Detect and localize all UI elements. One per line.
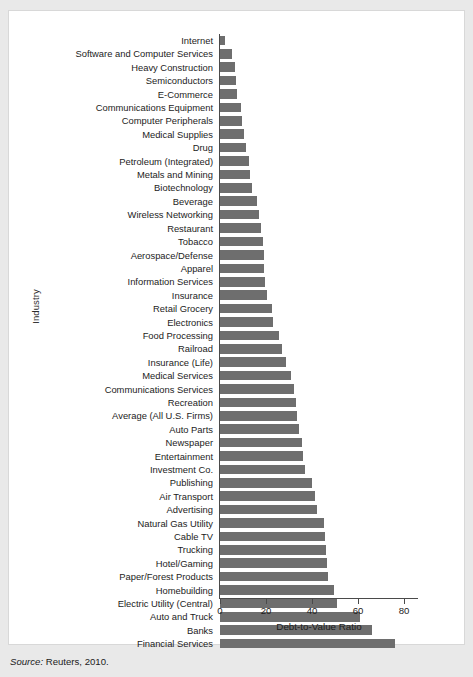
category-label: Auto and Truck <box>29 610 217 623</box>
bar-row <box>220 570 420 583</box>
plot-bars <box>220 34 420 598</box>
bar <box>220 129 244 139</box>
bar <box>220 290 267 300</box>
bar-row <box>220 637 420 650</box>
category-label: Restaurant <box>29 222 217 235</box>
bar-row <box>220 141 420 154</box>
bar <box>220 344 282 354</box>
x-tick-label: 40 <box>292 605 332 616</box>
category-label: Heavy Construction <box>29 61 217 74</box>
bar <box>220 558 327 568</box>
bar-row <box>220 543 420 556</box>
category-label: Metals and Mining <box>29 168 217 181</box>
bar-row <box>220 222 420 235</box>
category-label: Railroad <box>29 342 217 355</box>
bar-row <box>220 208 420 221</box>
bar <box>220 304 272 314</box>
category-label: Newspaper <box>29 436 217 449</box>
category-label: Hotel/Gaming <box>29 557 217 570</box>
source-note: Source: Reuters, 2010. <box>10 656 109 667</box>
category-label: Natural Gas Utility <box>29 517 217 530</box>
bar <box>220 411 297 421</box>
x-tick <box>220 599 221 604</box>
category-label: Investment Co. <box>29 463 217 476</box>
bar <box>220 237 263 247</box>
bar <box>220 116 242 126</box>
category-label: Banks <box>29 624 217 637</box>
category-label: Cable TV <box>29 530 217 543</box>
category-label: Insurance (Life) <box>29 356 217 369</box>
bar <box>220 89 237 99</box>
category-label: Publishing <box>29 476 217 489</box>
x-tick-label: 20 <box>246 605 286 616</box>
category-label: Food Processing <box>29 329 217 342</box>
x-tick-label: 0 <box>200 605 240 616</box>
bar <box>220 49 232 59</box>
bar-row <box>220 181 420 194</box>
bar <box>220 465 305 475</box>
category-label: Air Transport <box>29 490 217 503</box>
x-axis-title: Debt-to-Value Ratio <box>220 621 418 632</box>
bar-row <box>220 503 420 516</box>
bar <box>220 518 324 528</box>
bar <box>220 639 395 649</box>
bar <box>220 76 236 86</box>
bar-row <box>220 195 420 208</box>
bar <box>220 384 294 394</box>
bar-row <box>220 275 420 288</box>
bar-row <box>220 356 420 369</box>
category-label: Aerospace/Defense <box>29 249 217 262</box>
x-tick <box>358 599 359 604</box>
bar <box>220 210 259 220</box>
bar <box>220 451 303 461</box>
bar-row <box>220 436 420 449</box>
bar-row <box>220 88 420 101</box>
bar <box>220 331 279 341</box>
bar-row <box>220 342 420 355</box>
category-label: Communications Services <box>29 383 217 396</box>
category-label: Software and Computer Services <box>29 47 217 60</box>
bar-row <box>220 490 420 503</box>
bar <box>220 438 302 448</box>
category-label: Information Services <box>29 275 217 288</box>
category-label: Entertainment <box>29 450 217 463</box>
category-label: Semiconductors <box>29 74 217 87</box>
bar <box>220 196 257 206</box>
category-label: Financial Services <box>29 637 217 650</box>
bar-row <box>220 302 420 315</box>
bar <box>220 371 291 381</box>
bar <box>220 183 252 193</box>
bar <box>220 170 250 180</box>
bar <box>220 357 286 367</box>
category-label: Computer Peripherals <box>29 114 217 127</box>
category-label: E-Commerce <box>29 88 217 101</box>
x-axis-line <box>220 598 418 599</box>
bar-row <box>220 396 420 409</box>
x-tick-label: 80 <box>384 605 424 616</box>
category-label: Medical Services <box>29 369 217 382</box>
bar-row <box>220 74 420 87</box>
bar-row <box>220 369 420 382</box>
bar-row <box>220 476 420 489</box>
bar <box>220 36 225 46</box>
category-label: Trucking <box>29 543 217 556</box>
bar-row <box>220 128 420 141</box>
category-label: Electronics <box>29 316 217 329</box>
bar-row <box>220 47 420 60</box>
bar-row <box>220 530 420 543</box>
bar-row <box>220 61 420 74</box>
bar-row <box>220 316 420 329</box>
bar-row <box>220 463 420 476</box>
bar-row <box>220 557 420 570</box>
category-label: Tobacco <box>29 235 217 248</box>
category-label: Biotechnology <box>29 181 217 194</box>
figure-panel: Industry InternetSoftware and Computer S… <box>8 10 465 645</box>
bar-row <box>220 155 420 168</box>
category-label: Homebuilding <box>29 584 217 597</box>
bar <box>220 317 273 327</box>
bar-chart: Industry InternetSoftware and Computer S… <box>9 11 466 646</box>
category-label: Paper/Forest Products <box>29 570 217 583</box>
bar <box>220 264 264 274</box>
source-label: Source: <box>10 656 43 667</box>
category-label: Medical Supplies <box>29 128 217 141</box>
